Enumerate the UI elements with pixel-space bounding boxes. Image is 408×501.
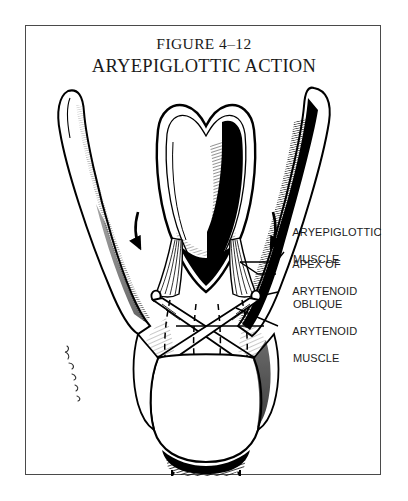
figure-frame: FIGURE 4–12 ARYEPIGLOTTIC ACTION: [25, 25, 381, 475]
label-oblique-arytenoid-line-1: OBLIQUE: [293, 298, 343, 310]
label-oblique-arytenoid-line-3: MUSCLE: [293, 352, 339, 364]
action-arrow-left: [136, 212, 140, 248]
label-aryepiglottic-muscle-line-1: ARYEPIGLOTTIC: [292, 226, 381, 238]
cricoid-cartilage: [151, 354, 262, 476]
artist-signature: [65, 346, 80, 401]
label-oblique-arytenoid-muscle: OBLIQUE ARYTENOID MUSCLE: [274, 284, 357, 379]
label-oblique-arytenoid-line-2: ARYTENOID: [292, 325, 357, 337]
figure-page: FIGURE 4–12 ARYEPIGLOTTIC ACTION: [0, 0, 408, 501]
label-apex-of-arytenoid-line-1: APEX OF: [292, 258, 340, 270]
thyroid-superior-horn-left: [58, 90, 150, 334]
